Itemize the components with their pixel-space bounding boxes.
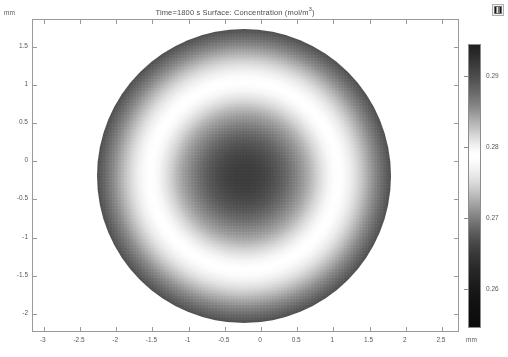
x-axis-tick [116, 20, 117, 24]
colorbar-tick-label: 0.27 [486, 214, 499, 221]
plot-title-closing: ) [312, 8, 315, 17]
colorbar-tick-label: 0.28 [486, 143, 499, 150]
y-axis-tick-label: -2 [2, 309, 28, 316]
y-axis-tick-label: 0 [2, 156, 28, 163]
x-axis-tick-label: -1 [173, 336, 203, 343]
x-axis-tick [333, 327, 334, 331]
x-axis-tick-label: -0.5 [209, 336, 239, 343]
x-axis-tick-label: -3 [28, 336, 58, 343]
x-axis-tick [44, 20, 45, 24]
x-axis-tick-label: 2.5 [426, 336, 456, 343]
x-axis-tick [333, 20, 334, 24]
x-axis-tick [297, 20, 298, 24]
x-axis-tick [297, 327, 298, 331]
colorbar-tick [464, 218, 468, 219]
x-axis-tick [370, 327, 371, 331]
x-axis-tick [442, 20, 443, 24]
y-axis-tick [33, 199, 37, 200]
plot-area[interactable] [32, 19, 459, 332]
y-axis-tick-label: 1 [2, 80, 28, 87]
y-axis-tick [33, 161, 37, 162]
colorbar-tick-label: 0.29 [486, 72, 499, 79]
y-axis-tick [33, 85, 37, 86]
y-axis-tick-label: -1 [2, 233, 28, 240]
colorbar-tick [464, 289, 468, 290]
x-axis-tick-label: 1.5 [354, 336, 384, 343]
colorbar[interactable] [468, 44, 481, 328]
x-axis-tick [189, 20, 190, 24]
x-axis-tick-label: -2 [100, 336, 130, 343]
y-axis-tick [454, 85, 458, 86]
y-axis-tick [454, 238, 458, 239]
x-axis-tick [261, 20, 262, 24]
x-axis-tick [152, 20, 153, 24]
x-axis-tick-label: -1.5 [136, 336, 166, 343]
page-title: Time=1800 s Surface: Concentration (mol/… [0, 6, 470, 17]
x-axis-tick [406, 20, 407, 24]
y-axis-tick-label: 1.5 [2, 42, 28, 49]
colorbar-tick [464, 147, 468, 148]
x-axis-tick [225, 20, 226, 24]
x-axis-tick-label: 2 [390, 336, 420, 343]
x-axis-tick-label: 0.5 [281, 336, 311, 343]
x-axis-tick [80, 20, 81, 24]
plot-title-text: Time=1800 s Surface: Concentration (mol/… [155, 8, 308, 17]
x-axis-tick [261, 327, 262, 331]
colorbar-legend-icon[interactable] [492, 4, 504, 16]
concentration-surface [97, 29, 391, 323]
x-axis-tick [406, 327, 407, 331]
y-axis-tick [33, 314, 37, 315]
y-axis-tick [454, 123, 458, 124]
x-axis-tick [44, 327, 45, 331]
x-axis-tick-label: 1 [317, 336, 347, 343]
colorbar-tick-label: 0.26 [486, 285, 499, 292]
colorbar-tick [464, 76, 468, 77]
x-axis-unit-label: mm [466, 336, 477, 343]
x-axis-tick [152, 327, 153, 331]
y-axis-tick [33, 238, 37, 239]
x-axis-tick [116, 327, 117, 331]
y-axis-tick [33, 276, 37, 277]
y-axis-tick [454, 276, 458, 277]
y-axis-tick-label: -0.5 [2, 194, 28, 201]
x-axis-tick [80, 327, 81, 331]
surface-mesh-overlay [97, 29, 391, 323]
y-axis-tick-label: -1.5 [2, 271, 28, 278]
x-axis-tick [370, 20, 371, 24]
x-axis-tick-label: 0 [245, 336, 275, 343]
y-axis-tick [454, 161, 458, 162]
x-axis-tick-label: -2.5 [64, 336, 94, 343]
x-axis-tick [442, 327, 443, 331]
y-axis-tick [454, 314, 458, 315]
y-axis-tick-label: 0.5 [2, 118, 28, 125]
x-axis-tick [225, 327, 226, 331]
y-axis-unit-label: mm [4, 9, 15, 16]
colorbar-legend-swatch [494, 6, 502, 14]
y-axis-tick [33, 123, 37, 124]
y-axis-tick [33, 47, 37, 48]
y-axis-tick [454, 47, 458, 48]
y-axis-tick [454, 199, 458, 200]
x-axis-tick [189, 327, 190, 331]
